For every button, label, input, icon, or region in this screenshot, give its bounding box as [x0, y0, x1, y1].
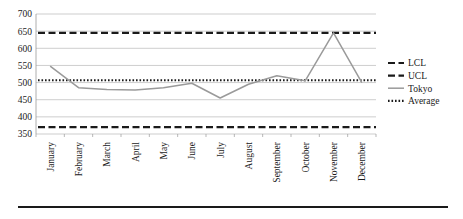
y-tick-label: 550	[18, 61, 33, 71]
y-tick-label: 500	[18, 78, 33, 88]
legend-label-ucl: UCL	[408, 71, 427, 81]
x-tick-label-march: March	[102, 142, 112, 167]
x-tick-label-september: September	[272, 141, 282, 182]
x-tick-label-april: April	[131, 142, 141, 162]
y-tick-label: 600	[18, 44, 33, 54]
x-tick-label-january: January	[46, 142, 56, 172]
x-tick-label-december: December	[357, 141, 367, 181]
y-tick-label: 650	[18, 27, 33, 37]
y-tick-label: 350	[18, 129, 33, 139]
legend-label-tokyo: Tokyo	[408, 84, 432, 94]
x-tick-label-november: November	[329, 141, 339, 182]
legend-label-lcl: LCL	[408, 58, 426, 68]
x-tick-label-june: June	[187, 142, 197, 159]
x-tick-label-august: August	[244, 142, 254, 170]
control-chart-figure: 350400450500550600650700 JanuaryFebruary…	[0, 0, 463, 219]
y-tick-label: 700	[18, 9, 33, 19]
x-tick-label-july: July	[216, 142, 226, 158]
legend-label-average: Average	[408, 96, 439, 106]
y-tick-label: 400	[18, 112, 33, 122]
chart-canvas: 350400450500550600650700 JanuaryFebruary…	[0, 0, 463, 219]
x-tick-label-february: February	[74, 142, 84, 177]
x-tick-label-october: October	[301, 141, 311, 172]
y-tick-label: 450	[18, 95, 33, 105]
x-tick-label-may: May	[159, 142, 169, 160]
